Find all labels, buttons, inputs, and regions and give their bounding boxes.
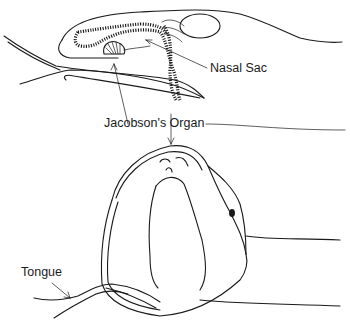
jacobsons-organ-diagram: Nasal Sac Jacobson's Organ Tongue <box>0 0 350 325</box>
tongue-label: Tongue <box>21 266 62 279</box>
sagittal-section <box>4 10 342 100</box>
jacobsons-organ-label: Jacobson's Organ <box>104 117 204 130</box>
open-mouth-view <box>34 146 340 318</box>
nasal-sac-leader <box>146 40 207 68</box>
tongue-leader <box>52 283 70 298</box>
jacobsons-organ-long-leader <box>206 124 345 130</box>
jacobsons-organ-leader-up <box>114 64 128 124</box>
nasal-sac-label: Nasal Sac <box>210 62 267 75</box>
